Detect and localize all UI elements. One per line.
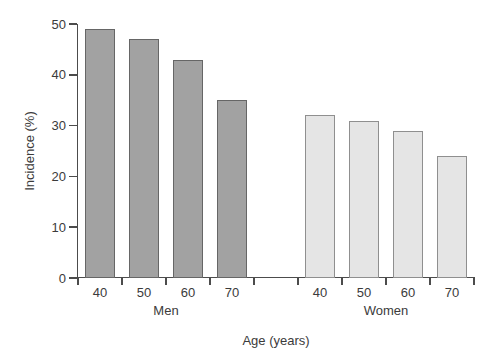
bar-men-70 <box>217 100 247 278</box>
y-axis-tick-label: 40 <box>26 66 66 83</box>
category-label-men-60: 60 <box>166 285 210 300</box>
y-axis-tick <box>69 176 77 178</box>
y-axis-tick-label: 0 <box>26 270 66 287</box>
y-axis-tick <box>69 277 77 279</box>
y-axis-tick <box>69 23 77 25</box>
x-axis-tick <box>77 278 79 285</box>
y-axis-tick <box>69 226 77 228</box>
x-axis-tick <box>473 278 475 285</box>
y-axis-tick <box>69 74 77 76</box>
x-axis-tick <box>429 278 431 285</box>
x-axis-tick <box>253 278 255 285</box>
y-axis-tick-label: 10 <box>26 219 66 236</box>
category-label-men-40: 40 <box>78 285 122 300</box>
x-axis-tick <box>165 278 167 285</box>
group-label-men: Men <box>121 303 211 318</box>
bar-men-40 <box>85 29 115 278</box>
category-label-men-70: 70 <box>210 285 254 300</box>
x-axis-tick <box>341 278 343 285</box>
bar-women-50 <box>349 121 379 278</box>
x-axis-tick <box>121 278 123 285</box>
y-axis-tick-label: 30 <box>26 117 66 134</box>
group-label-women: Women <box>341 303 431 318</box>
x-axis-tick <box>297 278 299 285</box>
y-axis-line <box>77 24 79 278</box>
bar-men-60 <box>173 60 203 278</box>
category-label-men-50: 50 <box>122 285 166 300</box>
category-label-women-40: 40 <box>298 285 342 300</box>
y-axis-tick <box>69 125 77 127</box>
x-axis-tick <box>385 278 387 285</box>
incidence-bar-chart: Incidence (%) Men Women Age (years) 0102… <box>0 0 500 364</box>
bar-men-50 <box>129 39 159 278</box>
y-axis-title: Incidence (%) <box>22 21 38 281</box>
category-label-women-50: 50 <box>342 285 386 300</box>
category-label-women-60: 60 <box>386 285 430 300</box>
bar-women-40 <box>305 115 335 278</box>
x-axis-tick <box>209 278 211 285</box>
y-axis-tick-label: 20 <box>26 168 66 185</box>
category-label-women-70: 70 <box>430 285 474 300</box>
x-axis-title: Age (years) <box>216 333 336 348</box>
bar-women-60 <box>393 131 423 278</box>
bar-women-70 <box>437 156 467 278</box>
y-axis-tick-label: 50 <box>26 16 66 33</box>
